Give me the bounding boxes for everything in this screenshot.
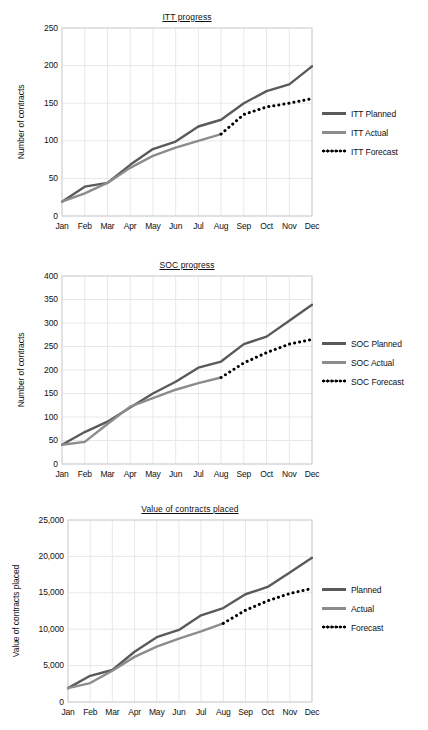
legend-label: ITT Planned [351,108,396,120]
y-tick-label: 5,000 [18,660,64,670]
charts-page: ITT progressNumber of contracts050100150… [0,0,428,730]
series-line [62,378,221,445]
y-tick-label: 200 [24,365,58,375]
y-tick-label: 0 [24,459,58,469]
x-tick-label: Dec [299,469,325,479]
y-tick-label: 10,000 [18,624,64,634]
y-tick-label: 15,000 [18,587,64,597]
y-tick-label: 150 [24,388,58,398]
series-line [62,66,312,201]
series-line [68,558,312,688]
chart-title: ITT progress [62,12,312,22]
legend-line-swatch-icon [322,131,346,134]
legend-label: Actual [351,603,374,615]
series-line [62,134,221,202]
y-tick-label: 400 [24,271,58,281]
legend-dotted-swatch-icon [322,625,346,629]
y-axis-label: Number of contracts [16,28,26,216]
plot-area [67,519,313,703]
y-tick-label: 250 [24,23,58,33]
y-tick-label: 100 [24,412,58,422]
legend-line-swatch-icon [322,588,346,591]
series-line [62,305,312,445]
legend-line-swatch-icon [322,361,346,364]
y-tick-label: 250 [24,341,58,351]
chart-title: Value of contracts placed [68,504,312,514]
y-tick-label: 0 [18,697,64,707]
y-tick-label: 200 [24,60,58,70]
legend-dotted-swatch-icon [322,379,346,383]
legend-label: ITT Forecast [351,146,398,158]
y-tick-label: 300 [24,318,58,328]
gridlines [62,276,312,464]
chart-title: SOC progress [62,260,312,270]
y-tick-label: 25,000 [18,515,64,525]
legend-line-swatch-icon [322,112,346,115]
legend-label: ITT Actual [351,127,388,139]
x-tick-label: Dec [299,221,325,231]
y-tick-label: 350 [24,294,58,304]
y-tick-label: 100 [24,135,58,145]
y-tick-label: 50 [24,435,58,445]
y-tick-label: 0 [24,211,58,221]
plot-area [61,275,313,465]
y-axis-label: Value of contracts placed [11,520,21,702]
chart-value-of-contracts-placed: Value of contracts placedValue of contra… [0,492,428,730]
legend-label: SOC Planned [351,338,402,350]
y-tick-label: 20,000 [18,551,64,561]
legend-dotted-swatch-icon [322,149,346,153]
x-tick-label: Dec [299,707,325,717]
legend-label: Planned [351,584,382,596]
plot-area [61,27,313,217]
chart-soc-progress: SOC progressNumber of contracts050100150… [0,248,428,496]
series-line [68,623,223,688]
legend-label: SOC Forecast [351,376,404,388]
chart-itt-progress: ITT progressNumber of contracts050100150… [0,0,428,248]
legend-line-swatch-icon [322,342,346,345]
legend-label: Forecast [351,622,383,634]
y-tick-label: 150 [24,98,58,108]
legend-line-swatch-icon [322,607,346,610]
y-tick-label: 50 [24,173,58,183]
legend-label: SOC Actual [351,357,394,369]
